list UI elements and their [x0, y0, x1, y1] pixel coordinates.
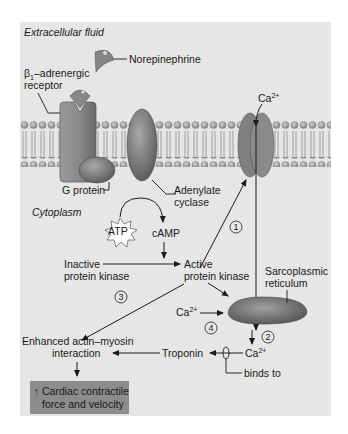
norepinephrine-label: Norepinephrine: [129, 53, 201, 65]
sr-label-line2: reticulum: [265, 277, 308, 289]
sarcoplasmic-reticulum: [228, 297, 307, 324]
result-up-arrow-icon: ↑: [34, 385, 39, 397]
troponin-label: Troponin: [162, 347, 203, 359]
ca-left-label: Ca2+: [176, 306, 197, 318]
kinase-to-actin-arrow: [82, 284, 184, 340]
adenylate-cyclase: [127, 109, 157, 181]
ca-bottom-label: Ca2+: [245, 347, 266, 359]
step-4-number: 4: [209, 323, 214, 333]
sr-label-line1: Sarcoplasmic: [265, 265, 328, 277]
result-label-line2: force and velocity: [42, 398, 124, 410]
step-1-number: 1: [234, 222, 239, 232]
step-3-number: 3: [119, 292, 124, 302]
adenylate-leader: [152, 180, 176, 194]
camp-label: cAMP: [152, 227, 180, 239]
atp-to-camp-arrow: [120, 198, 163, 222]
adenylate-label-line1: Adenylate: [174, 184, 221, 196]
extracellular-label: Extracellular fluid: [24, 26, 105, 38]
signaling-diagram: Extracellular fluid Cytoplasm Norepineph…: [0, 0, 348, 434]
receptor-leader: [38, 93, 60, 113]
binds-to-label: binds to: [244, 367, 281, 379]
result-label-line1: Cardiac contractile: [42, 385, 129, 397]
g-protein: [79, 157, 115, 183]
inactive-kinase-label-line2: protein kinase: [64, 270, 130, 282]
step-2-number: 2: [266, 332, 271, 342]
enhanced-label-line1: Enhanced actin–myosin: [22, 335, 134, 347]
ca-top-label: Ca2+: [258, 92, 279, 104]
g-protein-label: G protein: [62, 184, 105, 196]
kinase-to-sr-arrow: [208, 283, 228, 296]
active-kinase-label-line2: protein kinase: [184, 270, 250, 282]
enhanced-label-line2: interaction: [52, 347, 101, 359]
norepinephrine-icon: [95, 50, 114, 72]
active-kinase-label-line1: Active: [184, 258, 213, 270]
receptor-label-line2: receptor: [24, 79, 63, 91]
binds-to-leader: [226, 359, 242, 373]
atp-label: ATP: [108, 225, 128, 237]
inactive-kinase-label-line1: Inactive: [64, 258, 100, 270]
adenylate-label-line2: cyclase: [174, 196, 209, 208]
cytoplasm-label: Cytoplasm: [32, 206, 82, 218]
